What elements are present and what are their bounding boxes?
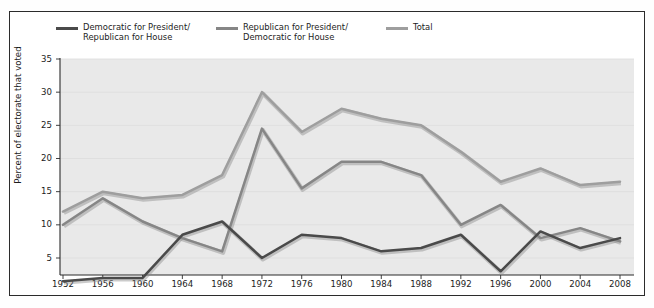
series-shadow-2 (64, 94, 621, 213)
figure-root: Democratic for President/ Republican for… (0, 0, 654, 308)
series-line-0 (63, 222, 620, 282)
plot-wrapper: Percent of electorate that voted 5101520… (0, 0, 654, 308)
chart-canvas (0, 0, 654, 308)
series-line-2 (63, 92, 620, 211)
